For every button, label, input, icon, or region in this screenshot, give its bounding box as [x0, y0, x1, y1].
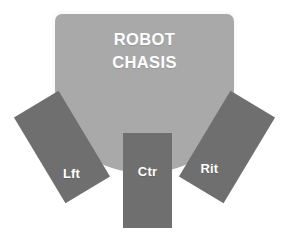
sensor-center-label: Ctr [123, 164, 172, 179]
chassis-label: ROBOT CHASIS [55, 28, 234, 75]
chassis-label-line-1: ROBOT [55, 28, 234, 51]
sensor-left-label: Lft [63, 166, 80, 181]
sensor-right-label: Rit [200, 161, 218, 176]
chassis-label-line-2: CHASIS [55, 51, 234, 74]
robot-chassis-diagram: ROBOT CHASIS Lft Ctr Rit [0, 0, 299, 243]
sensor-center: Ctr [123, 133, 172, 228]
